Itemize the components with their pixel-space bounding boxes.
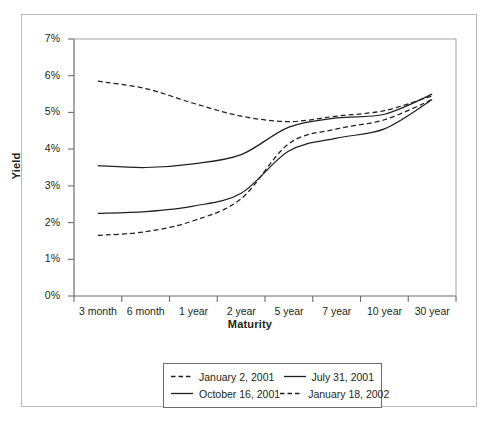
y-axis-title: Yield	[10, 136, 22, 196]
legend-swatch-solid-icon	[284, 372, 306, 381]
data-series-group	[98, 81, 432, 235]
legend-row-2: October 16, 2001 January 18, 2002	[171, 385, 374, 402]
y-axis-ticks	[68, 39, 74, 296]
legend-label-july-31-2001: July 31, 2001	[312, 371, 374, 383]
legend-label-january-18-2002: January 18, 2002	[308, 388, 389, 400]
y-tick-label-3: 3%	[26, 179, 60, 191]
series-line-october-16-2001	[98, 100, 432, 214]
yield-curve-plot	[22, 15, 478, 408]
y-tick-label-6: 6%	[26, 69, 60, 81]
y-tick-label-5: 5%	[26, 105, 60, 117]
legend-item-october-16-2001[interactable]: October 16, 2001	[171, 388, 280, 400]
y-tick-label-1: 1%	[26, 252, 60, 264]
legend-swatch-solid-icon	[171, 389, 193, 398]
x-axis-ticks	[74, 296, 456, 302]
legend-item-january-18-2002[interactable]: January 18, 2002	[280, 388, 389, 400]
y-tick-label-7: 7%	[26, 32, 60, 44]
legend-item-july-31-2001[interactable]: July 31, 2001	[284, 371, 374, 383]
y-tick-label-2: 2%	[26, 216, 60, 228]
y-tick-label-0: 0%	[26, 289, 60, 301]
chart-legend: January 2, 2001 July 31, 2001 October 16…	[163, 363, 382, 408]
chart-figure: 7% 6% 5% 4% 3% 2% 1% 0% 3 month 6 month …	[21, 14, 477, 407]
legend-swatch-dashed-icon	[280, 389, 302, 398]
series-line-july-31-2001	[98, 94, 432, 167]
legend-label-october-16-2001: October 16, 2001	[199, 388, 280, 400]
legend-swatch-dashed-icon	[171, 372, 193, 381]
x-tick-label-30-year: 30 year	[402, 305, 462, 317]
x-axis-title: Maturity	[0, 318, 500, 330]
legend-item-january-2-2001[interactable]: January 2, 2001	[171, 371, 284, 383]
y-tick-label-4: 4%	[26, 142, 60, 154]
legend-label-january-2-2001: January 2, 2001	[199, 371, 274, 383]
series-line-january-2-2001	[98, 81, 432, 121]
legend-row-1: January 2, 2001 July 31, 2001	[171, 368, 374, 385]
